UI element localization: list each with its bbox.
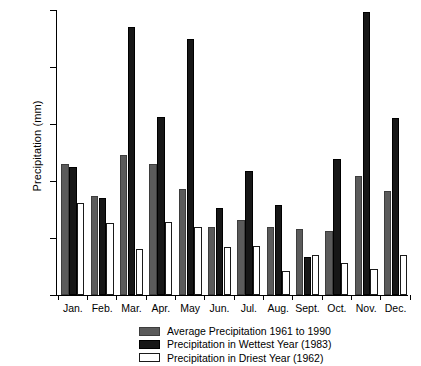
x-axis-tick-label: Jun. (210, 302, 230, 314)
legend-label: Precipitation in Driest Year (1962) (167, 352, 323, 364)
x-axis-tick (204, 295, 205, 300)
bar-wet (187, 39, 194, 296)
y-axis-title: Precipitation (mm) (31, 46, 43, 246)
y-axis-tick (50, 181, 56, 182)
bar-avg (91, 196, 98, 295)
bar-group (355, 10, 378, 295)
bar-dry (312, 255, 319, 295)
bar-group (296, 10, 319, 295)
bar-avg (179, 189, 186, 295)
x-axis-tick-label: Dec. (385, 302, 407, 314)
bar-wet (245, 171, 252, 295)
x-axis-tick (322, 295, 323, 300)
bar-dry (282, 271, 289, 295)
bar-group (267, 10, 290, 295)
bar-dry (224, 247, 231, 295)
y-axis-line (56, 10, 57, 295)
y-axis-tick (50, 10, 56, 11)
bar-dry (194, 227, 201, 295)
bar-dry (77, 203, 84, 295)
x-axis-tick-label: Jul. (241, 302, 257, 314)
y-axis-tick (50, 295, 56, 296)
x-axis-line (56, 295, 408, 296)
x-axis-tick (410, 295, 411, 300)
legend-item: Precipitation in Wettest Year (1983) (139, 338, 399, 351)
legend-swatch-wet (139, 340, 160, 349)
legend-item: Precipitation in Driest Year (1962) (139, 351, 399, 364)
x-axis-tick (292, 295, 293, 300)
bar-wet (157, 117, 164, 295)
x-axis-tick-label: Sept. (295, 302, 320, 314)
bar-dry (400, 255, 407, 295)
bar-group (325, 10, 348, 295)
bar-avg (61, 164, 68, 295)
bar-dry (253, 246, 260, 295)
bar-dry (341, 263, 348, 295)
bar-dry (136, 249, 143, 295)
precipitation-bar-chart: Precipitation (mm) 050100150200250 Jan.F… (0, 0, 421, 366)
x-axis-tick-label: Nov. (356, 302, 377, 314)
y-axis-tick (50, 238, 56, 239)
bar-avg (384, 191, 391, 295)
x-axis-tick (58, 295, 59, 300)
bar-wet (128, 27, 135, 295)
legend-label: Average Precipitation 1961 to 1990 (167, 325, 331, 337)
x-axis-tick-label: Mar. (121, 302, 141, 314)
legend-label: Precipitation in Wettest Year (1983) (167, 338, 331, 350)
x-axis-tick (116, 295, 117, 300)
x-axis-tick (175, 295, 176, 300)
bar-wet (216, 208, 223, 295)
plot-area: Jan.Feb.Mar.Apr.MayJun.Jul.Aug.Sept.Oct.… (56, 10, 408, 295)
bar-dry (106, 223, 113, 295)
x-axis-tick-label: May (180, 302, 200, 314)
bar-wet (275, 205, 282, 295)
bar-dry (165, 222, 172, 295)
bar-group (120, 10, 143, 295)
chart-legend: Average Precipitation 1961 to 1990Precip… (139, 325, 399, 365)
x-axis-tick (234, 295, 235, 300)
bar-avg (237, 220, 244, 295)
bar-group (237, 10, 260, 295)
x-axis-tick-label: Aug. (267, 302, 289, 314)
legend-swatch-dry (139, 353, 160, 362)
bar-wet (392, 118, 399, 295)
legend-item: Average Precipitation 1961 to 1990 (139, 325, 399, 338)
x-axis-tick-label: Feb. (92, 302, 113, 314)
bar-dry (370, 269, 377, 295)
x-axis-tick (87, 295, 88, 300)
y-axis-tick (50, 67, 56, 68)
x-axis-tick (263, 295, 264, 300)
bar-avg (149, 164, 156, 295)
bar-avg (296, 229, 303, 295)
x-axis-tick-label: Oct. (327, 302, 346, 314)
x-axis-tick (146, 295, 147, 300)
bar-group (91, 10, 114, 295)
bar-wet (69, 167, 76, 295)
x-axis-tick (380, 295, 381, 300)
bar-wet (333, 159, 340, 295)
bar-avg (120, 155, 127, 295)
bar-avg (355, 176, 362, 295)
bar-group (384, 10, 407, 295)
bar-avg (325, 231, 332, 295)
bar-group (149, 10, 172, 295)
bar-avg (267, 227, 274, 295)
bar-wet (304, 257, 311, 295)
bar-group (179, 10, 202, 295)
bar-group (61, 10, 84, 295)
x-axis-tick (351, 295, 352, 300)
bar-group (208, 10, 231, 295)
y-axis-tick (50, 124, 56, 125)
bar-wet (363, 12, 370, 295)
x-axis-tick-label: Jan. (63, 302, 83, 314)
legend-swatch-avg (139, 327, 160, 336)
x-axis-tick-label: Apr. (152, 302, 171, 314)
bar-avg (208, 227, 215, 295)
bar-wet (99, 198, 106, 295)
